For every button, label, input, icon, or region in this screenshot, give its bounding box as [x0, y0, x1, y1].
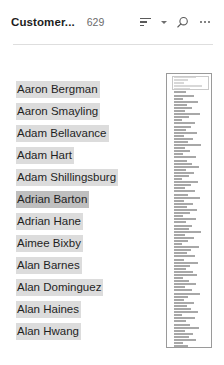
minimap-bar — [174, 156, 196, 158]
header-divider — [13, 44, 213, 45]
ellipsis-icon — [200, 21, 210, 23]
item-count-badge: 629 — [87, 16, 105, 28]
list-item-label: Aaron Bergman — [16, 81, 100, 98]
minimap-bar — [174, 237, 194, 239]
minimap-bar — [174, 169, 186, 171]
list-item-label: Adrian Barton — [16, 191, 89, 208]
list-item[interactable]: Alan Hwang — [0, 320, 160, 342]
minimap-bar — [174, 98, 183, 100]
minimap-bar — [174, 160, 187, 162]
minimap-bar — [174, 255, 195, 257]
minimap-bar — [174, 122, 195, 124]
minimap-bar — [174, 327, 199, 329]
minimap-bar — [174, 163, 192, 165]
minimap-bar — [174, 187, 185, 189]
minimap-bar — [174, 150, 190, 152]
minimap-bar — [174, 324, 190, 326]
minimap-bar — [174, 259, 184, 261]
minimap-bar — [174, 289, 192, 291]
minimap-bar — [174, 184, 191, 186]
more-options-button[interactable] — [194, 11, 216, 33]
minimap-bar — [174, 283, 196, 285]
panel-header: Customer... 629 — [0, 0, 224, 44]
minimap-bar — [174, 271, 193, 273]
list-item[interactable]: Adrian Barton — [0, 188, 160, 210]
minimap-bar — [174, 129, 186, 131]
minimap-bar — [174, 299, 184, 301]
minimap-bar — [174, 209, 197, 211]
list-minimap[interactable] — [166, 73, 212, 348]
minimap-bar — [174, 311, 198, 313]
minimap-bar — [174, 252, 187, 254]
minimap-bar — [174, 212, 190, 214]
minimap-bar — [174, 262, 198, 264]
page-title: Customer... — [11, 16, 75, 28]
minimap-bar — [174, 296, 188, 298]
list-item-label: Alan Dominguez — [16, 279, 103, 296]
list-item-label: Adrian Hane — [16, 213, 83, 230]
list-item[interactable]: Alan Haines — [0, 298, 160, 320]
minimap-bar — [174, 215, 183, 217]
minimap-bar — [174, 305, 187, 307]
minimap-bar — [174, 339, 196, 341]
minimap-bar — [174, 175, 189, 177]
list-item[interactable]: Adam Shillingsburg — [0, 166, 160, 188]
minimap-bar — [174, 330, 185, 332]
list-item-label: Alan Barnes — [16, 257, 82, 274]
minimap-bar — [174, 206, 187, 208]
minimap-bar — [174, 119, 182, 121]
minimap-bar — [174, 178, 182, 180]
minimap-bar — [174, 320, 186, 322]
search-button[interactable] — [171, 11, 193, 33]
minimap-bar — [174, 268, 186, 270]
minimap-bar — [174, 336, 189, 338]
minimap-viewport-handle[interactable] — [172, 76, 209, 90]
minimap-bar — [174, 234, 185, 236]
minimap-bar — [174, 181, 198, 183]
minimap-bar — [174, 308, 191, 310]
minimap-bar — [174, 101, 198, 103]
minimap-bar — [174, 203, 193, 205]
list-item-label: Alan Hwang — [16, 323, 81, 340]
minimap-bar — [174, 221, 186, 223]
minimap-bar — [174, 246, 199, 248]
list-item[interactable]: Aaron Bergman — [0, 78, 160, 100]
minimap-bar — [174, 274, 197, 276]
minimap-bar — [174, 172, 194, 174]
minimap-bars — [174, 76, 209, 345]
chevron-down-icon — [161, 21, 167, 24]
list-item[interactable]: Alan Barnes — [0, 254, 160, 276]
minimap-bar — [174, 107, 192, 109]
sort-button[interactable] — [134, 11, 156, 33]
minimap-bar — [174, 265, 190, 267]
minimap-bar — [174, 197, 200, 199]
list-item-label: Alan Haines — [16, 301, 81, 318]
minimap-bar — [174, 200, 184, 202]
minimap-bar — [174, 91, 186, 93]
minimap-bar — [174, 194, 188, 196]
minimap-bar — [174, 166, 199, 168]
list-item[interactable]: Alan Dominguez — [0, 276, 160, 298]
minimap-bar — [174, 231, 201, 233]
minimap-bar — [174, 243, 182, 245]
minimap-bar — [174, 126, 191, 128]
minimap-bar — [174, 333, 193, 335]
search-icon — [176, 16, 189, 29]
minimap-bar — [174, 314, 182, 316]
minimap-bar — [174, 113, 200, 115]
list-item[interactable]: Adam Bellavance — [0, 122, 160, 144]
list-item[interactable]: Aaron Smayling — [0, 100, 160, 122]
minimap-bar — [174, 345, 188, 347]
sort-dropdown-button[interactable] — [157, 11, 170, 33]
list-item[interactable]: Adam Hart — [0, 144, 160, 166]
minimap-bar — [174, 218, 196, 220]
customer-list: Aaron BergmanAaron SmaylingAdam Bellavan… — [0, 78, 160, 342]
minimap-bar — [174, 228, 189, 230]
list-item-label: Adam Hart — [16, 147, 74, 164]
minimap-bar — [174, 190, 195, 192]
list-item[interactable]: Adrian Hane — [0, 210, 160, 232]
minimap-bar — [174, 249, 191, 251]
list-item-label: Aimee Bixby — [16, 235, 83, 252]
minimap-bar — [174, 95, 194, 97]
list-item[interactable]: Aimee Bixby — [0, 232, 160, 254]
